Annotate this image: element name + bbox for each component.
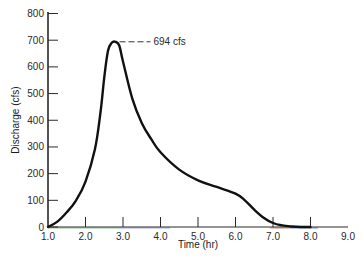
y-axis-ticks: 0100200300400500600700800 [27, 8, 58, 233]
x-tick-label: 4.0 [154, 231, 168, 242]
peak-annotation: 694 cfs [154, 36, 186, 47]
x-tick-label: 1.0 [41, 231, 55, 242]
x-tick-label: 2.0 [79, 231, 93, 242]
y-tick-label: 500 [27, 88, 44, 99]
y-axis-title: Discharge (cfs) [10, 86, 21, 153]
x-tick-label: 8.0 [304, 231, 318, 242]
y-tick-label: 600 [27, 61, 44, 72]
y-tick-label: 400 [27, 115, 44, 126]
x-tick-label: 3.0 [116, 231, 130, 242]
x-tick-label: 7.0 [266, 231, 280, 242]
hydrograph-curve [48, 41, 311, 227]
y-tick-label: 100 [27, 195, 44, 206]
x-tick-label: 6.0 [229, 231, 243, 242]
hydrograph-chart: 0100200300400500600700800 1.02.03.04.05.… [0, 0, 363, 264]
y-tick-label: 800 [27, 8, 44, 19]
x-axis-title: Time (hr) [178, 239, 218, 250]
y-tick-label: 300 [27, 141, 44, 152]
y-tick-label: 200 [27, 168, 44, 179]
y-tick-label: 700 [27, 35, 44, 46]
x-tick-label: 9.0 [341, 231, 355, 242]
